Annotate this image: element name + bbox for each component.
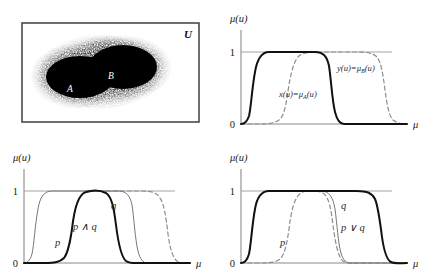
set-label-B: B <box>108 71 114 81</box>
curve-label-y: y(u)=μB(u) <box>336 63 375 74</box>
curve-q <box>241 191 407 263</box>
curve-label-q: q <box>341 200 346 211</box>
curve-label-p-and-q: p ∧ q <box>72 221 97 232</box>
curve-p <box>24 191 190 263</box>
y-tick-1: 1 <box>230 186 235 197</box>
panel-fuzzy-disjunction: μ(u) 1 0 μ p q p ∨ q <box>217 139 434 278</box>
x-axis-label: μ <box>412 119 418 130</box>
universe-diagram: A B U <box>0 0 217 139</box>
y-tick-0: 0 <box>230 258 235 269</box>
curve-p <box>241 191 407 264</box>
curve-label-p: p <box>279 237 285 248</box>
y-axis-label: μ(u) <box>12 152 31 164</box>
universe-label-U: U <box>184 28 193 40</box>
disjunction-chart: μ(u) 1 0 μ p q p ∨ q <box>217 139 434 278</box>
curve-q <box>24 191 190 263</box>
curve-label-x: x(u)=μA(u) <box>278 89 317 100</box>
fuzzy-logic-figure: A B U μ(u) 1 0 μ x(u)=μA(u) y(u)=μB(u) <box>0 0 434 278</box>
y-tick-1: 1 <box>13 186 18 197</box>
y-tick-0: 0 <box>230 119 235 130</box>
panel-fuzzy-sets-universe: A B U <box>0 0 217 139</box>
curve-label-p: p <box>54 237 60 248</box>
curve-y-mu-B <box>241 52 407 124</box>
conjunction-chart: μ(u) 1 0 μ p q p ∧ q <box>0 139 217 278</box>
curve-label-q: q <box>111 200 116 211</box>
set-label-A: A <box>66 84 73 94</box>
curve-p-and-q <box>24 191 190 264</box>
x-axis-label: μ <box>412 258 418 269</box>
membership-chart: μ(u) 1 0 μ x(u)=μA(u) y(u)=μB(u) <box>217 0 434 139</box>
y-tick-0: 0 <box>13 258 18 269</box>
panel-membership-functions: μ(u) 1 0 μ x(u)=μA(u) y(u)=μB(u) <box>217 0 434 139</box>
curve-x-mu-A <box>241 52 407 124</box>
curve-label-p-or-q: p ∨ q <box>340 222 365 233</box>
y-axis-label: μ(u) <box>229 152 248 164</box>
y-axis-label: μ(u) <box>229 13 248 25</box>
curve-p-or-q <box>241 191 407 263</box>
y-tick-1: 1 <box>230 47 235 58</box>
x-axis-label: μ <box>195 258 201 269</box>
panel-fuzzy-conjunction: μ(u) 1 0 μ p q p ∧ q <box>0 139 217 278</box>
